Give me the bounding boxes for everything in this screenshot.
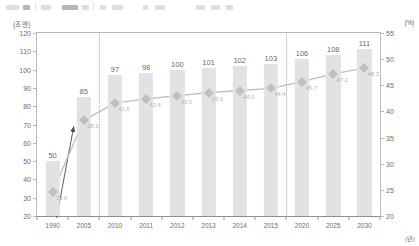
toolbar-icon-9[interactable] [155, 5, 165, 10]
y-axis-left-tick [33, 106, 37, 107]
x-axis-tick-label: 1990 [45, 222, 59, 229]
x-axis-tick [286, 216, 287, 220]
bar-value-label: 101 [202, 58, 215, 67]
y-axis-left-tick-label: 100 [19, 66, 31, 73]
bar-value-label: 98 [142, 63, 150, 72]
y-axis-left-tick-label: 60 [23, 139, 31, 146]
y-axis-right-tick-label: 35 [386, 134, 394, 141]
y-axis-left-tick [33, 88, 37, 89]
line-value-label: 43.6 [212, 96, 223, 102]
bar [108, 75, 122, 216]
line-value-label: 24.6 [56, 195, 67, 201]
bar-value-label: 85 [80, 87, 88, 96]
line-value-label: 44.0 [243, 94, 254, 100]
toolbar-icon-12[interactable] [226, 5, 233, 10]
x-axis-tick [224, 216, 225, 220]
period-divider [99, 33, 100, 216]
bar-value-label: 102 [233, 56, 246, 65]
y-axis-left-tick [33, 125, 37, 126]
bar-value-label: 108 [327, 45, 340, 54]
y-axis-right-tick [380, 85, 384, 86]
bar-value-label: 103 [265, 54, 278, 63]
line-value-label: 41.6 [118, 106, 129, 112]
bar-value-label: 50 [48, 151, 56, 160]
bar-value-label: 97 [111, 65, 119, 74]
chart-screenshot: (조 엔) (%) (년) 20304050607080901001101202… [0, 0, 419, 246]
x-axis-tick-label: 2015 [264, 222, 278, 229]
toolbar-separator-2 [93, 3, 94, 10]
y-axis-right-tick [380, 216, 384, 217]
y-axis-right-tick-label: 40 [386, 108, 394, 115]
y-axis-left-tick-label: 30 [23, 194, 31, 201]
toolbar-icon-2[interactable] [23, 5, 30, 10]
y-axis-left-tick [33, 51, 37, 52]
y-axis-left-tick [33, 198, 37, 199]
y-axis-left-tick [33, 143, 37, 144]
y-axis-left-tick-label: 40 [23, 176, 31, 183]
x-axis-tick [37, 216, 38, 220]
toolbar-icon-6[interactable] [100, 5, 106, 10]
y-axis-right-tick [380, 33, 384, 34]
toolbar-icon-8[interactable] [143, 5, 148, 10]
x-axis-tick-label: 2020 [295, 222, 309, 229]
toolbar-icon-5[interactable] [82, 5, 89, 10]
x-axis-tick-label: 2025 [326, 222, 340, 229]
x-axis-tick-label: 2013 [201, 222, 215, 229]
bar-value-label: 106 [296, 49, 309, 58]
y-axis-left-tick-label: 20 [23, 213, 31, 220]
line-value-label: 48.3 [368, 71, 379, 77]
x-axis-tick-label: 2030 [357, 222, 371, 229]
bar-value-label: 111 [359, 39, 370, 48]
y-axis-left-tick [33, 70, 37, 71]
y-axis-left-tick [33, 161, 37, 162]
y-axis-left-tick-label: 110 [20, 48, 31, 55]
line-value-label: 47.2 [337, 77, 348, 83]
x-axis-tick [255, 216, 256, 220]
x-axis-unit: (년) [405, 234, 415, 243]
y-axis-left-tick-label: 70 [23, 121, 31, 128]
x-axis-tick [68, 216, 69, 220]
toolbar-icon-4[interactable] [62, 5, 78, 10]
toolbar-icon-3[interactable] [41, 5, 51, 10]
y-axis-right-tick-label: 50 [386, 56, 394, 63]
y-axis-right-unit: (%) [404, 19, 414, 26]
x-axis-tick-label: 2012 [170, 222, 184, 229]
y-axis-right-tick-label: 25 [386, 186, 394, 193]
x-axis-tick-label: 2010 [108, 222, 122, 229]
line-value-label: 43.0 [181, 99, 192, 105]
toolbar-separator-1 [35, 3, 36, 10]
y-axis-right-tick [380, 138, 384, 139]
x-axis-tick-label: 2011 [139, 222, 153, 229]
toolbar-icon-1[interactable] [6, 5, 19, 10]
y-axis-right-tick [380, 190, 384, 191]
x-axis-tick [161, 216, 162, 220]
x-axis-tick [130, 216, 131, 220]
y-axis-left-tick-label: 80 [23, 103, 31, 110]
toolbar-icon-7[interactable] [112, 5, 123, 10]
y-axis-right-tick-label: 20 [386, 213, 394, 220]
x-axis-tick [380, 216, 381, 220]
y-axis-right-tick-label: 55 [386, 30, 394, 37]
line-value-label: 45.7 [305, 85, 316, 91]
x-axis-tick [348, 216, 349, 220]
y-axis-right-tick-label: 45 [386, 82, 394, 89]
y-axis-left-tick-label: 120 [19, 30, 31, 37]
x-axis-tick [317, 216, 318, 220]
y-axis-right-tick [380, 59, 384, 60]
y-axis-left-tick [33, 179, 37, 180]
x-axis-tick-label: 2005 [77, 222, 91, 229]
toolbar-icon-10[interactable] [196, 5, 205, 10]
x-axis-tick [192, 216, 193, 220]
y-axis-left-tick-label: 90 [23, 84, 31, 91]
bar-value-label: 100 [171, 60, 184, 69]
y-axis-left-tick-label: 50 [23, 158, 31, 165]
line-value-label: 44.4 [274, 91, 285, 97]
cropped-application-toolbar[interactable] [0, 0, 419, 11]
x-axis-tick [99, 216, 100, 220]
y-axis-right-tick-label: 30 [386, 160, 394, 167]
x-axis-tick-label: 2014 [232, 222, 246, 229]
plot-area: 2030405060708090100110120202530354045505… [36, 32, 381, 217]
toolbar-icon-11[interactable] [211, 5, 220, 10]
y-axis-left-unit: (조 엔) [13, 19, 30, 29]
y-axis-left-tick [33, 33, 37, 34]
